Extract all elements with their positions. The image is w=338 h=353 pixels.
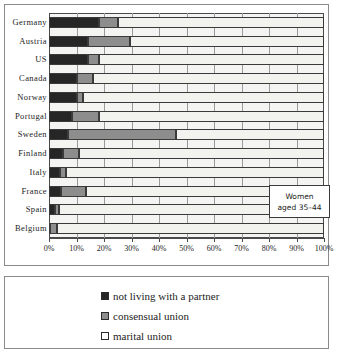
bar-segment [63, 148, 80, 159]
x-axis-tick [77, 238, 78, 242]
x-axis-tick-label: 40% [144, 244, 174, 253]
x-axis-tick [159, 238, 160, 242]
x-axis-tick [132, 238, 133, 242]
bar-segment [99, 111, 325, 122]
y-axis-label: Norway [0, 92, 47, 103]
bar-row [49, 73, 324, 84]
bar-segment [57, 223, 324, 234]
legend-label: marital union [113, 330, 172, 342]
x-axis-tick-label: 70% [227, 244, 257, 253]
bar-segment [77, 73, 94, 84]
bar-segment [49, 17, 99, 28]
bar-segment [72, 111, 98, 122]
bar-segment [49, 167, 60, 178]
women-age-callout: Women aged 35–44 [269, 185, 330, 218]
callout-line-2: aged 35–44 [278, 202, 322, 213]
bar-segment [49, 36, 88, 47]
bar-segment [99, 17, 118, 28]
y-axis-label: Spain [0, 204, 47, 215]
bar-segment [49, 129, 68, 140]
bar-row [49, 111, 324, 122]
bar-row [49, 36, 324, 47]
bar-segment [130, 36, 324, 47]
y-axis-label: Germany [0, 17, 47, 28]
x-axis-tick [242, 238, 243, 242]
x-axis-tick [269, 238, 270, 242]
x-axis-tick [214, 238, 215, 242]
y-axis-label: France [0, 186, 47, 197]
x-axis-tick-label: 0% [34, 244, 64, 253]
x-axis-tick [324, 238, 325, 242]
legend-label: consensual union [113, 310, 189, 322]
y-axis-label: Finland [0, 148, 47, 159]
bar-row [49, 129, 324, 140]
bar-segment [68, 129, 175, 140]
bar-segment [49, 73, 77, 84]
x-axis-tick-label: 90% [282, 244, 312, 253]
y-axis-label: US [0, 54, 47, 65]
bar-segment [118, 17, 324, 28]
legend-list: not living with a partnerconsensual unio… [101, 286, 219, 346]
x-axis-tick-label: 10% [62, 244, 92, 253]
x-axis-tick-label: 20% [89, 244, 119, 253]
chart-panel: GermanyAustriaUSCanadaNorwayPortugalSwed… [4, 4, 329, 266]
x-axis: 0%10%20%30%40%50%60%70%80%90%100% [49, 238, 324, 262]
legend-panel: not living with a partnerconsensual unio… [4, 276, 329, 349]
bar-segment [49, 54, 88, 65]
x-axis-tick-label: 60% [199, 244, 229, 253]
bar-segment [61, 186, 86, 197]
y-axis-label: Italy [0, 167, 47, 178]
bar-segment [49, 186, 61, 197]
x-axis-tick-label: 100% [309, 244, 338, 253]
x-axis-tick [187, 238, 188, 242]
y-axis-label: Sweden [0, 129, 47, 140]
y-axis-label: Canada [0, 73, 47, 84]
legend-swatch-icon [101, 312, 109, 320]
legend-swatch-icon [101, 292, 109, 300]
x-axis-tick [104, 238, 105, 242]
bar-segment [99, 54, 325, 65]
bar-row [49, 148, 324, 159]
bar-row [49, 223, 324, 234]
y-axis-label: Austria [0, 36, 47, 47]
bar-segment [88, 54, 99, 65]
bar-segment [93, 73, 324, 84]
callout-line-1: Women [285, 191, 313, 202]
bar-row [49, 54, 324, 65]
bar-segment [49, 111, 72, 122]
legend-item: marital union [101, 326, 219, 346]
x-axis-tick [49, 238, 50, 242]
legend-item: consensual union [101, 306, 219, 326]
legend-item: not living with a partner [101, 286, 219, 306]
legend-label: not living with a partner [113, 290, 219, 302]
bar-row [49, 92, 324, 103]
bar-segment [79, 148, 324, 159]
y-axis-label: Belgium [0, 223, 47, 234]
x-axis-tick-label: 80% [254, 244, 284, 253]
bar-segment [176, 129, 325, 140]
bar-row [49, 17, 324, 28]
bar-segment [50, 223, 57, 234]
y-axis-label: Portugal [0, 111, 47, 122]
bar-segment [77, 92, 84, 103]
bar-segment [66, 167, 325, 178]
x-axis-tick [297, 238, 298, 242]
bar-segment [49, 92, 77, 103]
bar-segment [83, 92, 324, 103]
legend-swatch-icon [101, 332, 109, 340]
x-axis-tick-label: 50% [172, 244, 202, 253]
bar-segment [49, 148, 63, 159]
x-axis-tick-label: 30% [117, 244, 147, 253]
bar-segment [88, 36, 131, 47]
y-axis-labels: GermanyAustriaUSCanadaNorwayPortugalSwed… [0, 13, 47, 238]
bar-row [49, 167, 324, 178]
